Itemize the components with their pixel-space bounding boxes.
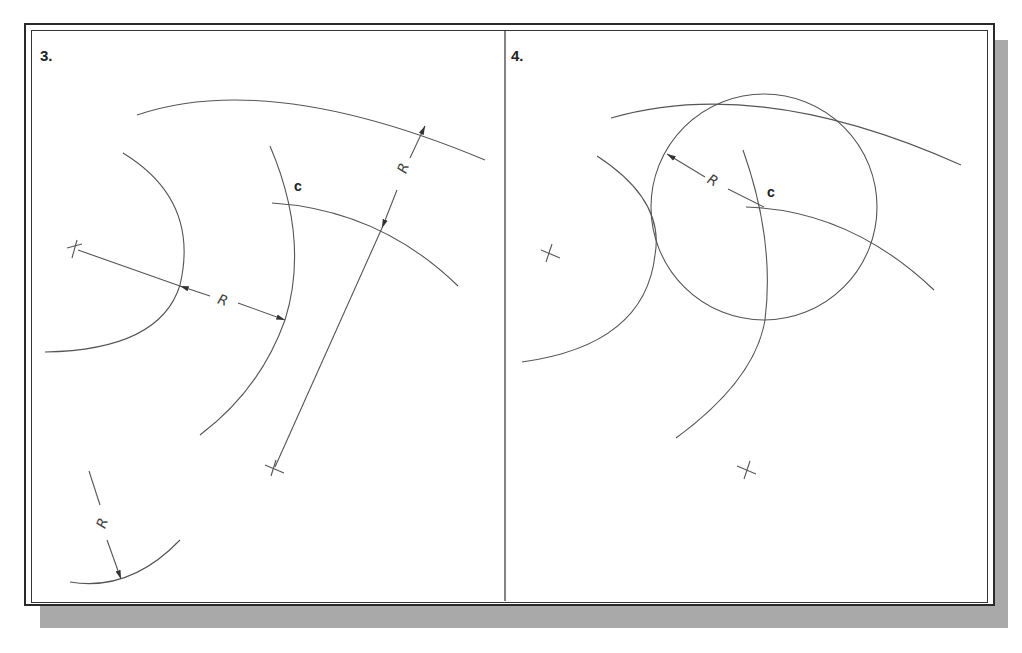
center-mark-left-v [72,240,77,258]
radius-line-4 [667,154,705,177]
sample-arc [70,540,180,584]
left-arc-4 [522,156,656,362]
step-4-label: 4. [511,47,524,64]
offset-arc [272,203,458,286]
dim-line-1b [238,303,285,320]
point-c-label-3: c [294,178,302,194]
construction-drawing [0,0,1022,653]
middle-arc-4 [676,150,767,438]
step-3-label: 3. [40,47,53,64]
sample-radius-a [89,471,100,505]
point-c-label-4: c [767,184,775,200]
panel-3-geometry [45,100,485,584]
panel-4-geometry [522,94,961,479]
long-radius-line [275,228,382,467]
offset-arc-4 [746,207,934,290]
large-arc [137,100,485,160]
left-arc [45,153,184,352]
sample-radius-b [107,540,121,579]
dim-line-1a [78,250,180,286]
middle-arc [200,146,295,435]
